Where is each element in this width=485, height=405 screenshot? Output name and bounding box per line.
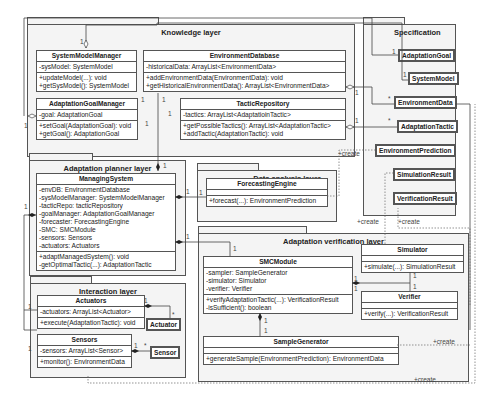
create-label: +create <box>433 338 455 345</box>
mult-1: 1 <box>144 297 148 304</box>
mult-1: 1 <box>355 89 359 96</box>
mult-1: 1 <box>186 188 190 195</box>
mult-1: 1 <box>141 96 145 103</box>
mult-1: 1 <box>354 285 358 292</box>
mult-1: 1 <box>28 345 32 352</box>
mult-1: 1 <box>28 303 32 310</box>
mult-1: 1 <box>186 233 190 240</box>
mult-1: 1 <box>392 48 396 55</box>
mult-1: 1 <box>162 96 166 103</box>
mult-1: 1 <box>413 272 417 279</box>
create-label: +create <box>414 376 436 383</box>
mult-1: 1 <box>134 342 138 349</box>
association-lines <box>0 0 485 405</box>
mult-1: 1 <box>163 162 167 169</box>
mult-1: 1 <box>80 38 84 45</box>
mult-1: 1 <box>413 283 417 290</box>
create-label: +create <box>338 150 360 157</box>
mult-1: 1 <box>354 275 358 282</box>
mult-many: * <box>172 311 175 318</box>
mult-1: 1 <box>24 122 28 129</box>
mult-1: 1 <box>168 110 172 117</box>
mult-many: * <box>388 95 391 102</box>
mult-1: 1 <box>264 327 268 334</box>
mult-1: 1 <box>233 245 237 252</box>
mult-1: 1 <box>355 117 359 124</box>
mult-1: 1 <box>264 317 268 324</box>
create-label: +create <box>398 218 420 225</box>
create-label: +create <box>357 218 379 225</box>
mult-1: 1 <box>24 203 28 210</box>
mult-many: * <box>144 342 147 349</box>
mult-1: 1 <box>403 71 407 78</box>
mult-1: 1 <box>145 120 149 127</box>
mult-1: 1 <box>199 189 203 196</box>
mult-many: * <box>388 117 391 124</box>
